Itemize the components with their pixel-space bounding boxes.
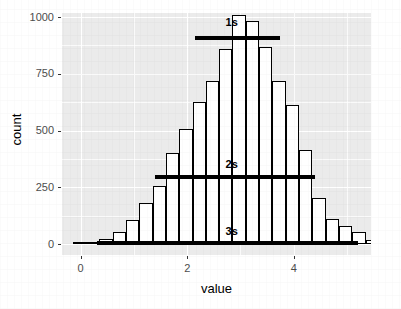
gridline-y-major: [62, 74, 371, 75]
y-tick-label: 1000: [6, 12, 54, 23]
plot-panel: 1s2s3s: [62, 13, 371, 255]
sigma-label-sigma2: 2s: [226, 159, 238, 170]
x-tick-label: 0: [61, 263, 101, 274]
histogram-bar: [219, 49, 232, 244]
y-tick-mark: [58, 17, 61, 18]
gridline-x-minor: [347, 13, 348, 255]
y-tick-mark: [58, 131, 61, 132]
histogram-bar: [272, 81, 285, 244]
y-axis-title: count: [9, 70, 24, 190]
histogram-bar: [206, 81, 219, 244]
histogram-bar: [179, 129, 192, 244]
sigma-line-sigma1: [195, 36, 280, 40]
sigma-label-sigma1: 1s: [226, 17, 238, 28]
histogram-bar: [139, 203, 152, 244]
histogram-bar: [366, 240, 371, 245]
histogram-figure: 1s2s3s 02505007501000 024 value count: [0, 0, 401, 309]
sigma-line-sigma2: [155, 175, 315, 179]
x-tick-label: 4: [274, 263, 314, 274]
y-tick-mark: [58, 74, 61, 75]
y-tick-mark: [58, 244, 61, 245]
y-tick-mark: [58, 187, 61, 188]
y-tick-label: 0: [6, 239, 54, 250]
histogram-bar: [193, 102, 206, 244]
gridline-x-major: [81, 13, 82, 255]
x-axis-title: value: [62, 281, 371, 296]
histogram-bar: [312, 198, 325, 245]
x-tick-label: 2: [167, 263, 207, 274]
sigma-line-sigma3: [97, 241, 358, 245]
histogram-bar: [73, 242, 86, 244]
x-tick-mark: [187, 256, 188, 259]
gridline-y-major: [62, 17, 371, 18]
gridline-y-minor: [62, 45, 371, 46]
histogram-bar: [232, 15, 245, 244]
histogram-bar: [299, 150, 312, 244]
histogram-bar: [259, 47, 272, 245]
gridline-x-minor: [134, 13, 135, 255]
histogram-bar: [166, 153, 179, 244]
x-tick-mark: [81, 256, 82, 259]
histogram-bar: [153, 186, 166, 245]
x-tick-mark: [294, 256, 295, 259]
sigma-label-sigma3: 3s: [226, 226, 238, 237]
histogram-bar: [246, 21, 259, 245]
